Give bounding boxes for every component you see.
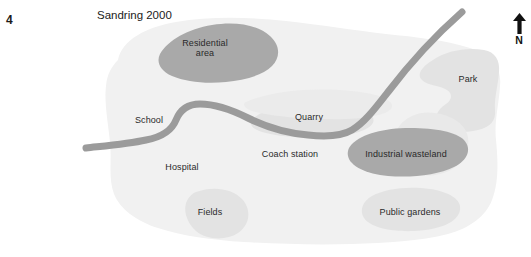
map-label-school: School xyxy=(128,115,170,125)
map-label-public-gardens: Public gardens xyxy=(373,207,447,217)
map-label-hospital: Hospital xyxy=(158,162,206,172)
map-graphic xyxy=(0,0,531,257)
map-label-industrial-wasteland: Industrial wasteland xyxy=(356,149,456,159)
map-label-coach-station: Coach station xyxy=(255,149,325,159)
map-label-park: Park xyxy=(448,74,488,84)
map-label-fields: Fields xyxy=(191,207,229,217)
map-label-residential-area: Residential area xyxy=(175,38,235,59)
map-figure: 4 Sandring 2000 N Residential xyxy=(0,0,531,257)
map-label-quarry: Quarry xyxy=(286,112,332,122)
